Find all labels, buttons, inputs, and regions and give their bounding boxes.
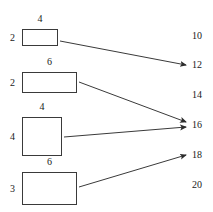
box-3-height-label: 4 (10, 132, 15, 142)
arrow-box3-to-16 (64, 127, 186, 137)
value-20: 20 (192, 180, 202, 190)
box-3 (22, 117, 62, 156)
value-16: 16 (192, 120, 202, 130)
arrow-box1-to-12 (60, 41, 186, 65)
value-14: 14 (192, 90, 202, 100)
box-1-width-label: 4 (38, 14, 43, 24)
value-12: 12 (192, 60, 202, 70)
box-4-height-label: 3 (10, 184, 15, 194)
box-3-width-label: 4 (40, 102, 45, 112)
box-4 (22, 172, 77, 205)
value-10: 10 (192, 31, 202, 41)
box-2-width-label: 6 (47, 57, 52, 67)
box-1 (22, 29, 58, 46)
box-2-height-label: 2 (10, 78, 15, 88)
box-4-width-label: 6 (47, 157, 52, 167)
arrow-box2-to-16 (79, 82, 186, 122)
diagram-canvas: 42624463 101214161820 (0, 0, 213, 212)
arrow-box4-to-18 (79, 155, 186, 187)
box-1-height-label: 2 (10, 33, 15, 43)
box-2 (22, 72, 77, 93)
value-18: 18 (192, 150, 202, 160)
